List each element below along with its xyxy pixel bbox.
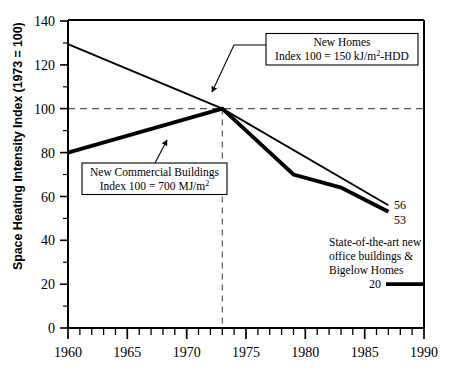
state-of-the-art-note-line3: Bigelow Homes [329,264,404,277]
x-tick-label-1965: 1965 [113,345,141,360]
callout-new-commercial-line2-superscript: 2 [205,179,209,188]
x-tick-label-1990: 1990 [410,345,438,360]
y-tick-label-20: 20 [41,277,55,292]
y-tick-label-100: 100 [34,102,55,117]
state-of-the-art-note-line2: office buildings & [329,250,413,263]
x-tick-label-1960: 1960 [54,345,82,360]
y-axis-title: Space Heating Intensity Index (1973 = 10… [11,22,25,270]
callout-new-homes-line1: New Homes [313,36,371,48]
x-tick-label-1975: 1975 [232,345,260,360]
space-heating-intensity-line-chart: 140 120 100 80 60 40 20 0 Space Heating … [0,0,453,374]
y-tick-label-80: 80 [41,146,55,161]
callout-new-homes-line2-prefix: Index 100 = 150 kJ/m [275,50,376,62]
y-axis-tick-labels: 140 120 100 80 60 40 20 0 [34,14,55,336]
data-label-new-homes-56: 56 [394,198,406,212]
x-tick-label-1985: 1985 [351,345,379,360]
data-label-state-of-the-art-20: 20 [369,277,381,291]
y-tick-label-120: 120 [34,58,55,73]
y-tick-label-0: 0 [48,321,55,336]
callout-new-homes-line2: Index 100 = 150 kJ/m2-HDD [275,49,409,62]
chart-figure: 140 120 100 80 60 40 20 0 Space Heating … [0,0,453,374]
callout-new-commercial-line1: New Commercial Buildings [90,166,220,179]
callout-new-homes-line2-suffix: -HDD [380,50,409,62]
y-tick-label-60: 60 [41,190,55,205]
x-tick-label-1980: 1980 [291,345,319,360]
y-tick-label-140: 140 [34,14,55,29]
callout-new-commercial-line2: Index 100 = 700 MJ/m2 [100,179,210,192]
data-label-new-commercial-53: 53 [394,213,406,227]
x-tick-label-1970: 1970 [173,345,201,360]
callout-new-commercial-line2-prefix: Index 100 = 700 MJ/m [100,180,206,192]
x-axis-tick-labels: 1960 1965 1970 1975 1980 1985 1990 [54,345,438,360]
state-of-the-art-note-line1: State-of-the-art new [329,236,422,248]
y-tick-label-40: 40 [41,233,55,248]
x-axis-major-ticks [68,328,424,339]
